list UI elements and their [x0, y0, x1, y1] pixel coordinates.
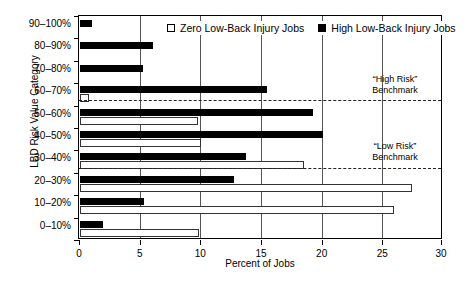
bar-high-injury [80, 65, 143, 72]
y-tick-label: 60–70% [0, 86, 71, 96]
x-tick-label: 30 [426, 248, 456, 259]
plot-area: 90–100% 80–90% 70–80% 60–70% [78, 15, 442, 239]
y-tick [74, 16, 79, 17]
low-risk-benchmark-line [79, 168, 441, 169]
legend-item-zero-injury: Zero Low-Back Injury Jobs [167, 22, 304, 34]
x-tick-label: 0 [64, 248, 94, 259]
y-tick [74, 106, 79, 107]
bar-high-injury [80, 20, 92, 27]
y-tick [74, 61, 79, 62]
y-tick-label: 0–10% [0, 221, 71, 231]
chart-row: 80–90% [79, 38, 441, 60]
bar-zero-injury [80, 139, 201, 147]
x-tick [322, 240, 323, 245]
bar-high-injury [80, 198, 144, 205]
y-tick-label: 80–90% [0, 41, 71, 51]
y-tick [74, 83, 79, 84]
y-tick-label: 40–50% [0, 131, 71, 141]
y-tick [74, 128, 79, 129]
x-tick-label: 15 [246, 248, 276, 259]
bar-high-injury [80, 42, 153, 49]
low-risk-benchmark-line2: Benchmark [353, 152, 437, 163]
y-tick [74, 173, 79, 174]
y-tick-label: 50–60% [0, 109, 71, 119]
high-risk-benchmark-line2: Benchmark [353, 85, 437, 96]
legend-swatch-open-square-icon [167, 24, 175, 32]
y-tick [74, 195, 79, 196]
bar-high-injury [80, 153, 246, 160]
low-risk-benchmark-label: “Low Risk” Benchmark [353, 141, 437, 163]
legend-item-high-injury: High Low-Back Injury Jobs [318, 22, 455, 34]
x-tick-label: 25 [367, 248, 397, 259]
x-tick [200, 240, 201, 245]
bar-high-injury [80, 131, 323, 138]
x-tick [261, 240, 262, 245]
chart-row: 10–20% [79, 195, 441, 217]
high-risk-benchmark-line1: “High Risk” [353, 74, 437, 85]
y-tick-label: 10–20% [0, 198, 71, 208]
bar-high-injury [80, 221, 103, 228]
bar-zero-injury [80, 117, 198, 125]
chart-figure: LBD Risk Value Category Percent of Jobs … [0, 0, 468, 283]
chart-row: 20–30% [79, 173, 441, 195]
x-axis-title: Percent of Jobs [78, 258, 442, 269]
low-risk-benchmark-line1: “Low Risk” [353, 141, 437, 152]
bar-zero-injury [80, 229, 199, 237]
high-risk-benchmark-label: “High Risk” Benchmark [353, 74, 437, 96]
x-tick-label: 5 [125, 248, 155, 259]
high-risk-benchmark-line [79, 100, 441, 101]
legend-label-high-injury: High Low-Back Injury Jobs [331, 22, 455, 34]
y-tick-label: 70–80% [0, 64, 71, 74]
chart-row: 0–10% [79, 218, 441, 240]
x-tick [382, 240, 383, 245]
x-tick [79, 240, 80, 245]
x-tick-label: 10 [185, 248, 215, 259]
bar-zero-injury [80, 184, 412, 192]
bar-high-injury [80, 109, 313, 116]
x-tick-label: 20 [307, 248, 337, 259]
y-tick [74, 38, 79, 39]
x-tick [140, 240, 141, 245]
y-tick [74, 218, 79, 219]
y-tick-label: 30–40% [0, 153, 71, 163]
bar-high-injury [80, 176, 234, 183]
y-tick-label: 90–100% [0, 19, 71, 29]
chart-row: 50–60% [79, 106, 441, 128]
x-tick [441, 240, 442, 245]
legend-swatch-filled-square-icon [318, 24, 326, 32]
legend-label-zero-injury: Zero Low-Back Injury Jobs [180, 22, 304, 34]
chart-legend: Zero Low-Back Injury Jobs High Low-Back … [165, 21, 458, 35]
y-tick [74, 150, 79, 151]
bar-high-injury [80, 86, 267, 93]
y-tick-label: 20–30% [0, 176, 71, 186]
bar-zero-injury [80, 206, 394, 214]
